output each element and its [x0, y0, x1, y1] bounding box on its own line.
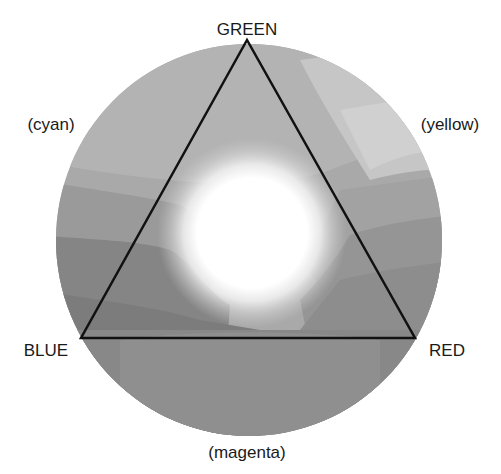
color-circle-diagram: GREEN BLUE RED (cyan) (yellow) (magenta) [0, 0, 501, 474]
label-green: GREEN [217, 20, 277, 39]
label-magenta: (magenta) [208, 443, 285, 462]
color-disc [40, 30, 460, 450]
label-yellow: (yellow) [421, 115, 480, 134]
label-blue: BLUE [24, 341, 68, 360]
label-cyan: (cyan) [27, 115, 74, 134]
label-red: RED [429, 341, 465, 360]
